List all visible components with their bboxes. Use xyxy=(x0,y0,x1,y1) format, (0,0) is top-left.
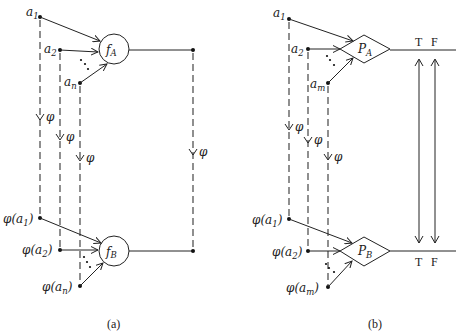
input-am-label: am xyxy=(310,77,325,93)
PA-true-label: T xyxy=(415,35,423,49)
arrow-phi-am-to-PB xyxy=(328,261,352,287)
PB-true-label: T xyxy=(415,255,423,269)
ellipsis-icon xyxy=(83,256,85,258)
phi-label: φ xyxy=(295,120,304,134)
phi-label: φ xyxy=(334,150,343,164)
node-PA-label: PA xyxy=(357,42,372,58)
ellipsis-icon xyxy=(86,261,88,263)
arrow-phi-a1-to-PB xyxy=(289,219,352,243)
arrow-am-to-PA xyxy=(328,58,353,83)
input-phi-a2-label: φ(a2) xyxy=(22,243,53,259)
arrow-phi-an-to-fB xyxy=(80,263,103,286)
input-phi-a1-label: φ(a1) xyxy=(3,212,34,228)
ellipsis-icon xyxy=(326,55,328,57)
input-phi-a2-label: φ(a2) xyxy=(272,245,303,261)
panel-b: a1 a2 am PA T F φ φ φ φ(a1) xyxy=(252,6,456,331)
ellipsis-icon xyxy=(325,263,327,265)
ellipsis-icon xyxy=(89,266,91,268)
panel-a-caption: (a) xyxy=(107,317,120,331)
input-a1-label: a1 xyxy=(273,6,286,22)
arrow-a2-to-fA xyxy=(60,50,98,52)
PB-false-label: F xyxy=(431,255,438,269)
phi-label: φ xyxy=(199,145,208,159)
ellipsis-icon xyxy=(329,59,331,61)
fA-output-dot xyxy=(191,48,195,52)
arrow-phi-a1-to-fB xyxy=(40,218,101,243)
phi-label: φ xyxy=(314,133,323,147)
ellipsis-icon xyxy=(328,267,330,269)
panel-a: a1 a2 an fA φ φ φ φ φ(a1) xyxy=(3,5,208,331)
input-a1-label: a1 xyxy=(26,5,39,21)
phi-label: φ xyxy=(66,130,75,144)
input-phi-an-label: φ(an) xyxy=(42,280,73,296)
input-an-label: an xyxy=(64,75,77,91)
PA-false-label: F xyxy=(431,35,438,49)
input-phi-am-label: φ(am) xyxy=(286,281,319,297)
ellipsis-icon xyxy=(333,271,335,273)
input-a2-label: a2 xyxy=(291,42,304,58)
panel-b-caption: (b) xyxy=(368,317,382,331)
ellipsis-icon xyxy=(84,63,86,65)
phi-label: φ xyxy=(46,110,55,124)
diagram-canvas: a1 a2 an fA φ φ φ φ φ(a1) xyxy=(0,0,460,336)
ellipsis-icon xyxy=(333,64,335,66)
arrow-an-to-fA xyxy=(80,64,107,83)
fB-output-dot xyxy=(191,249,195,253)
node-PB-label: PB xyxy=(357,244,372,260)
node-fB-label: fB xyxy=(105,245,117,260)
ellipsis-icon xyxy=(87,68,89,70)
arrow-a1-to-PA xyxy=(289,19,353,41)
arrow-a1-to-fA xyxy=(40,17,100,41)
input-phi-a1-label: φ(a1) xyxy=(252,213,283,229)
input-a2-label: a2 xyxy=(44,42,57,58)
phi-label: φ xyxy=(86,151,95,165)
ellipsis-icon xyxy=(80,59,82,61)
node-fA-label: fA xyxy=(105,43,117,58)
